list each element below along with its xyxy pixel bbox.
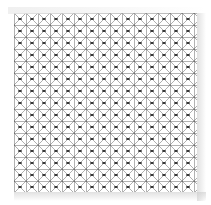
pattern-canvas: Seamless grey lattice grid pattern on wh… (0, 0, 211, 205)
swatch-shadow-bottom (14, 192, 206, 201)
swatch-shadow-right (197, 13, 206, 201)
lattice-pattern-swatch (14, 13, 197, 192)
lattice-fill-rect (14, 13, 197, 192)
lattice-pattern-svg (14, 13, 197, 192)
